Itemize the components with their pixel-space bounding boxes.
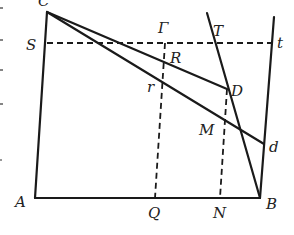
label-A: A xyxy=(13,193,26,211)
label-B: B xyxy=(265,195,277,213)
line-CA xyxy=(35,12,47,198)
label-D: D xyxy=(230,82,243,100)
line-right-vertical xyxy=(260,17,274,198)
label-r: r xyxy=(147,78,155,96)
line-steep-TB xyxy=(207,13,260,198)
label-C: C xyxy=(38,0,50,10)
label-S: S xyxy=(26,36,36,54)
label-T: T xyxy=(213,22,224,40)
left-margin-fragments xyxy=(0,8,3,160)
line-CD xyxy=(47,12,227,89)
geometry-diagram: C S Γ T t R r D M d A Q N B xyxy=(0,0,294,235)
label-M: M xyxy=(198,121,215,139)
label-N: N xyxy=(212,204,227,222)
label-R: R xyxy=(169,49,181,67)
dashed-line-DN xyxy=(220,89,227,198)
label-d: d xyxy=(269,138,279,156)
dashed-line-GammaQ xyxy=(155,43,165,198)
line-Cd xyxy=(47,12,264,144)
label-Q: Q xyxy=(148,204,160,222)
label-t: t xyxy=(277,34,284,52)
label-Gamma: Γ xyxy=(157,19,169,37)
